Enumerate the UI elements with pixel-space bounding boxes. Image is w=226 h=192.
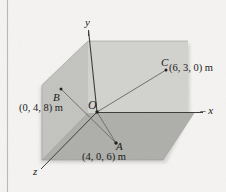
axis-label-x-prefix: – xyxy=(200,104,208,116)
figure-graphics xyxy=(0,0,226,192)
axis-label-x-letter: x xyxy=(208,104,213,116)
point-label-C-coords: (6, 3, 0) m xyxy=(169,63,213,74)
point-label-C-letter: C xyxy=(161,57,168,68)
point-label-B-coords: (0, 4, 8) m xyxy=(19,103,63,114)
paper-grain xyxy=(0,0,226,192)
point-label-A-coords: (4, 0, 6) m xyxy=(82,152,126,163)
axis-label-z: z xyxy=(33,166,37,177)
figure-canvas: y – x z O C (6, 3, 0) m B (0, 4, 8) m A … xyxy=(0,0,226,192)
origin-label: O xyxy=(88,99,97,111)
axis-label-y: y xyxy=(85,17,90,28)
axis-label-x: – x xyxy=(200,105,213,116)
